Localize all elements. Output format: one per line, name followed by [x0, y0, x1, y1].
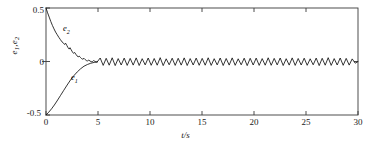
chart-figure: e1,e2 0.5 0 -0.5 0 5 10 15 20 25 30 t/s: [0, 0, 371, 152]
curve-e1: [46, 62, 97, 115]
curve-steady-oscillation: [97, 58, 358, 66]
x-tick-marks: [46, 111, 358, 115]
curve-label-e2: e2: [63, 23, 70, 35]
x-tick-marks-top: [98, 8, 306, 12]
plot-svg: e2 e1: [0, 0, 371, 152]
curve-label-e1: e1: [71, 72, 78, 84]
y-tick-marks: [42, 8, 358, 115]
curve-e2: [46, 8, 97, 62]
